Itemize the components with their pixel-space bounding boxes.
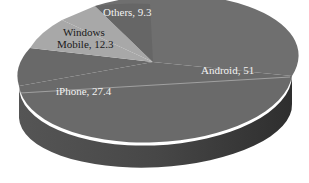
label-windows-mobile-line2: Mobile, 12.3 <box>57 38 114 50</box>
label-iphone: iPhone, 27.4 <box>56 85 112 97</box>
label-windows-mobile-line1: Windows <box>63 26 105 38</box>
label-others: Others, 9.3 <box>103 6 152 18</box>
pie-chart-3d: Others, 9.3 Windows Mobile, 12.3 Android… <box>0 0 309 183</box>
label-android: Android, 51 <box>201 64 254 76</box>
